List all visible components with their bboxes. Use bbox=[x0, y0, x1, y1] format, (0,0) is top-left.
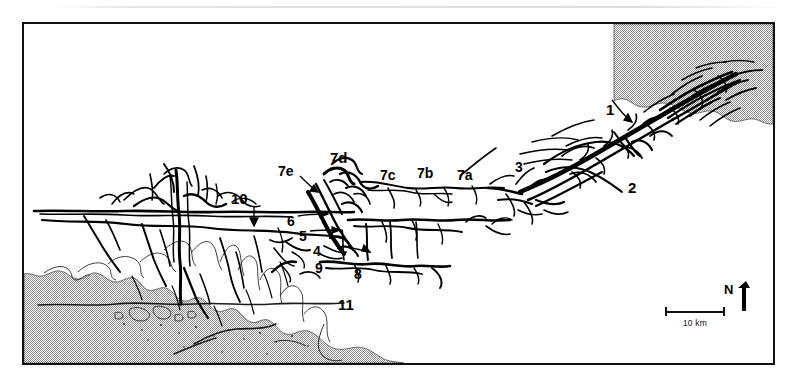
map-label-7c: 7c bbox=[380, 168, 396, 182]
map-frame: 1 2 3 4 5 6 7a 7b 7c 7d 7e 8 9 10 11 10 … bbox=[22, 22, 775, 365]
map-label-7b: 7b bbox=[417, 166, 433, 180]
scale-bar: 10 km bbox=[665, 307, 725, 329]
scale-bar-line bbox=[665, 311, 725, 313]
map-label-7a: 7a bbox=[457, 168, 473, 182]
map-label-10: 10 bbox=[231, 191, 248, 206]
north-arrow-icon bbox=[737, 281, 753, 311]
map-label-6: 6 bbox=[287, 214, 295, 228]
north-letter: N bbox=[724, 282, 733, 297]
map-label-4: 4 bbox=[313, 244, 321, 258]
map-label-9: 9 bbox=[315, 261, 323, 275]
map-label-3: 3 bbox=[515, 160, 523, 174]
map-label-5: 5 bbox=[299, 229, 307, 243]
map-label-11: 11 bbox=[338, 297, 354, 312]
map-label-1: 1 bbox=[606, 102, 614, 117]
map-label-7e: 7e bbox=[278, 164, 294, 178]
scan-artifact-rule bbox=[48, 6, 788, 8]
scale-bar-label: 10 km bbox=[665, 318, 725, 328]
map-label-7d: 7d bbox=[330, 150, 348, 165]
sea-region-southwest bbox=[24, 271, 404, 363]
map-label-8: 8 bbox=[354, 267, 362, 281]
map-label-2: 2 bbox=[628, 180, 636, 195]
north-arrow: N bbox=[724, 282, 760, 314]
figure-container: 1 2 3 4 5 6 7a 7b 7c 7d 7e 8 9 10 11 10 … bbox=[0, 0, 794, 388]
map-graphic bbox=[24, 24, 773, 363]
